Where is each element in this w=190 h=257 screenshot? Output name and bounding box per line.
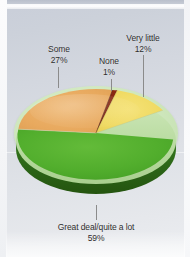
leader-line-great-deal (96, 205, 97, 220)
right-page-margin (184, 0, 190, 257)
label-none-value: 1% (88, 67, 130, 78)
pie-chart-figure: Some 27% None 1% Very little 12% Great d… (0, 0, 190, 257)
label-great-deal: Great deal/quite a lot 59% (30, 222, 162, 243)
slice-great-deal (17, 129, 173, 180)
label-some-name: Some (32, 44, 86, 55)
label-some: Some 27% (32, 44, 86, 65)
left-page-margin (0, 0, 7, 257)
label-very-little: Very little 12% (110, 33, 176, 54)
label-some-value: 27% (32, 55, 86, 66)
pie-slices-svg (18, 89, 174, 177)
pie-chart (14, 82, 178, 200)
label-great-deal-value: 59% (30, 233, 162, 244)
label-none-name: None (88, 56, 130, 67)
label-very-little-value: 12% (110, 44, 176, 55)
pie-top-face (18, 89, 174, 177)
leader-line-very-little (143, 55, 144, 97)
label-none: None 1% (88, 56, 130, 77)
leader-line-none (111, 79, 112, 91)
label-great-deal-name: Great deal/quite a lot (30, 222, 162, 233)
leader-line-some (58, 67, 59, 88)
label-very-little-name: Very little (110, 33, 176, 44)
top-white-band (6, 4, 185, 9)
